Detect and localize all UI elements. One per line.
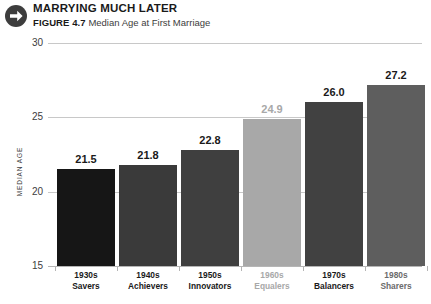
- category-name: Achievers: [113, 281, 183, 292]
- x-tick-mark: [365, 266, 366, 271]
- bar[interactable]: [243, 119, 301, 266]
- bar-value-label: 27.2: [367, 70, 425, 81]
- bar[interactable]: [57, 169, 115, 266]
- x-tick-mark: [55, 266, 56, 271]
- x-axis-category-label[interactable]: 1950sInnovators: [175, 270, 245, 292]
- x-axis-category-label[interactable]: 1930sSavers: [51, 270, 121, 292]
- bar-value-label: 22.8: [181, 135, 239, 146]
- category-decade: 1950s: [198, 270, 221, 280]
- category-name: Equalers: [237, 281, 307, 292]
- bar-value-label: 24.9: [243, 104, 301, 115]
- bar[interactable]: [305, 102, 363, 266]
- x-tick-mark: [303, 266, 304, 271]
- category-name: Balancers: [299, 281, 369, 292]
- x-axis-category-label[interactable]: 1940sAchievers: [113, 270, 183, 292]
- x-tick-mark: [427, 266, 428, 271]
- x-tick-mark: [117, 266, 118, 271]
- category-decade: 1980s: [384, 270, 407, 280]
- x-axis-category-label[interactable]: 1980sSharers: [361, 270, 431, 292]
- bar[interactable]: [181, 150, 239, 266]
- category-decade: 1930s: [74, 270, 97, 280]
- x-tick-mark: [241, 266, 242, 271]
- category-name: Sharers: [361, 281, 431, 292]
- x-axis-category-label[interactable]: 1970sBalancers: [299, 270, 369, 292]
- bar[interactable]: [119, 165, 177, 266]
- category-name: Innovators: [175, 281, 245, 292]
- bar-value-label: 26.0: [305, 87, 363, 98]
- category-decade: 1970s: [322, 270, 345, 280]
- x-tick-mark: [179, 266, 180, 271]
- gridline-30: [48, 43, 422, 44]
- category-name: Savers: [51, 281, 121, 292]
- category-decade: 1940s: [136, 270, 159, 280]
- y-tick-label-25: 25: [13, 112, 43, 122]
- bar[interactable]: [367, 85, 425, 266]
- y-tick-label-30: 30: [13, 38, 43, 48]
- gridline-25: [48, 117, 422, 118]
- y-tick-label-20: 20: [13, 187, 43, 197]
- category-decade: 1960s: [260, 270, 283, 280]
- bar-value-label: 21.8: [119, 150, 177, 161]
- x-axis-category-label[interactable]: 1960sEqualers: [237, 270, 307, 292]
- bar-value-label: 21.5: [57, 154, 115, 165]
- y-tick-label-15: 15: [13, 261, 43, 271]
